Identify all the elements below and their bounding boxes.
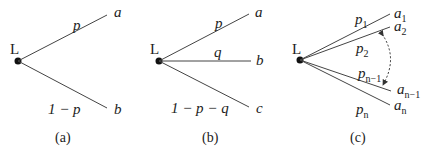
root-label: L	[10, 41, 19, 57]
caption: (b)	[202, 130, 219, 146]
prob-label: p	[72, 17, 81, 33]
root-label: L	[292, 41, 301, 57]
diagram-c: L p1 a1 p2 a2 pn−1 an−1 pn an (c)	[292, 5, 420, 146]
outcome-label: a	[255, 4, 263, 20]
outcome-label: b	[256, 52, 264, 68]
caption: (a)	[55, 130, 71, 146]
prob-label: p1	[354, 11, 368, 30]
prob-label: p	[214, 15, 223, 31]
branch-line	[300, 14, 390, 60]
caption: (c)	[350, 130, 366, 146]
lottery-diagrams: L p a 1 − p b (a) L p a q b 1 − p − q c …	[0, 0, 439, 157]
ellipsis-arrow-icon	[382, 34, 391, 83]
branch-line	[300, 27, 390, 60]
outcome-label: a	[114, 4, 122, 20]
branch-line	[159, 14, 249, 61]
prob-label: p2	[355, 40, 369, 59]
prob-label: pn	[355, 101, 369, 120]
diagram-a: L p a 1 − p b (a)	[10, 4, 122, 146]
prob-label: 1 − p	[48, 101, 81, 117]
prob-label: 1 − p − q	[171, 100, 229, 116]
outcome-label: b	[114, 101, 122, 117]
root-label: L	[150, 41, 159, 57]
diagram-b: L p a q b 1 − p − q c (b)	[150, 4, 264, 146]
outcome-label: c	[256, 100, 263, 116]
prob-label: q	[214, 44, 222, 60]
branch-line	[18, 15, 107, 61]
